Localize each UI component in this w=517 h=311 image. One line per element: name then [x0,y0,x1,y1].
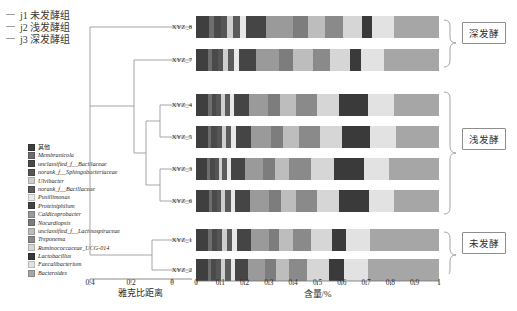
bar-segment [308,16,325,38]
bar-segment [293,49,312,71]
group-label-box[interactable]: 未发酵 [462,232,506,254]
sample-label: XYZ_6 [158,197,192,204]
bar-segment [325,16,343,38]
bar-segment [269,229,280,251]
stacked-bar[interactable] [196,158,439,180]
bar-segment [394,16,439,38]
bar-segment [283,126,299,148]
bar-segment [196,94,208,116]
legend-swatch [28,144,35,151]
bar-segment [266,16,293,38]
bar-segment [234,94,249,116]
sample-label: XYZ_5 [158,133,192,140]
sample-label: XYZ_1 [158,236,192,243]
stacked-bar[interactable] [196,229,439,251]
legend-swatch [28,211,35,218]
value-tick-label: 0.1 [216,278,225,287]
legend-swatch [28,253,35,260]
bar-segment [268,94,280,116]
value-tick-label: 0.3 [264,278,273,287]
bar-segment [339,190,368,212]
bar-segment [196,126,208,148]
dash-icon [6,14,15,15]
bar-segment [279,229,293,251]
bar-segment [196,49,208,71]
bar-segment [249,94,268,116]
figure-canvas: j1 未发酵组 j2 浅发酵组 j3 深发酵组 其他Membranicolaun… [0,0,517,311]
bar-segment [370,229,439,251]
bar-segment [299,126,320,148]
group-label-box[interactable]: 浅发酵 [462,128,506,150]
bar-segment [280,94,296,116]
bar-segment [330,49,351,71]
stacked-bar[interactable] [196,126,439,148]
legend-swatch [28,270,35,277]
bar-row [196,229,439,251]
legend-swatch [28,194,35,201]
bar-row [196,49,439,71]
legend-swatch [28,160,35,167]
bar-row [196,94,439,116]
bar-row [196,16,439,38]
bar-segment [279,49,293,71]
legend-label: Nocardiopsis [38,219,70,227]
sample-label: XYZ_2 [158,266,192,273]
value-tick-label: 1 [437,278,441,287]
value-tick-label: 0.2 [240,278,249,287]
bar-segment [350,49,361,71]
dendrogram [88,12,192,274]
bar-segment [394,94,439,116]
legend-label: norank_f__Bacillaceae [38,185,95,193]
dash-icon [6,26,15,27]
legend-swatch [28,244,35,251]
dendrogram-svg [88,12,192,274]
stacked-bar[interactable] [196,16,439,38]
bar-segment [250,190,269,212]
bar-segment [368,94,394,116]
bar-segment [370,126,396,148]
bar-segment [271,126,283,148]
bar-segment [275,158,290,180]
bar-segment [311,158,334,180]
bar-row [196,158,439,180]
sample-label: XYZ_8 [158,23,192,30]
bar-segment [334,158,364,180]
bar-segment [313,49,330,71]
bar-segment [384,49,439,71]
stacked-bar[interactable] [196,190,439,212]
stacked-bar[interactable] [196,49,439,71]
legend-swatch [28,186,35,193]
legend-label: Treponema [38,235,65,243]
legend-swatch [28,169,35,176]
bar-segment [369,190,394,212]
legend-swatch [28,202,35,209]
bar-segment [311,229,332,251]
bar-segment [342,126,371,148]
legend-label: Bacteroides [38,269,67,277]
legend-swatch [28,236,35,243]
bar-segment [339,94,368,116]
bar-segment [236,126,251,148]
bar-segment [332,229,347,251]
bar-segment [394,190,439,212]
value-tick-label: 0.8 [386,278,395,287]
bar-segment [389,158,439,180]
dash-icon [6,38,15,39]
group-label-box[interactable]: 深发酵 [462,22,506,44]
legend-label: Caldicoprobacter [38,210,81,218]
legend-swatch [28,228,35,235]
bar-segment [196,190,209,212]
stacked-bar-chart [196,12,439,274]
stacked-bar[interactable] [196,94,439,116]
bar-segment [293,16,308,38]
bar-segment [196,16,209,38]
value-axis-label: 含量/% [196,287,439,300]
bar-segment [362,16,372,38]
bar-segment [317,94,339,116]
sample-label: XYZ_7 [158,56,192,63]
dendrogram-tick-label: 0.4 [85,278,94,287]
bar-row [196,190,439,212]
value-tick-label: 0 [194,278,198,287]
legend-label: Faecalibacterium [38,260,81,268]
bar-segment [214,16,221,38]
